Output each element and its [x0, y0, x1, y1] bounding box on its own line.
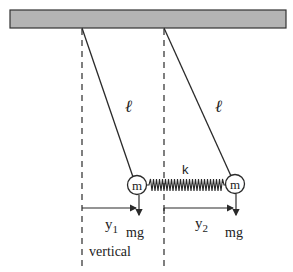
weight-label-right: mg: [225, 225, 243, 240]
weight-label-left: mg: [126, 225, 144, 240]
length-label-left: ℓ: [125, 97, 132, 116]
ceiling-support: [10, 10, 286, 28]
mass-right-label: m: [230, 177, 240, 192]
vertical-label: vertical: [89, 244, 131, 259]
displacement-label-left: y1: [105, 216, 118, 235]
spring-constant-label: k: [182, 162, 189, 177]
coupled-pendulum-diagram: ℓ ℓ k m m mg mg y1 y2 vertical: [0, 0, 293, 272]
length-label-right: ℓ: [215, 97, 222, 116]
spring: [147, 179, 226, 191]
displacement-label-right: y2: [195, 215, 208, 234]
mass-left-label: m: [132, 178, 142, 193]
